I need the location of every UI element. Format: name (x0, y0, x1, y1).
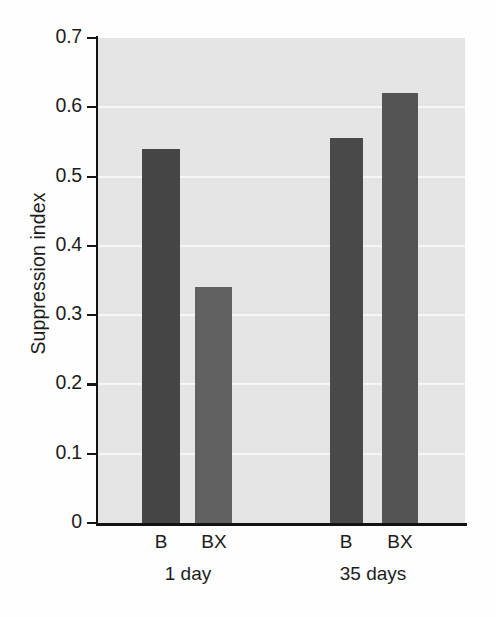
y-tick-mark (87, 314, 96, 316)
y-tick-mark (87, 383, 96, 385)
plot-area (98, 38, 465, 523)
y-tick-label: 0.3 (12, 302, 82, 325)
bar-b-35days (330, 138, 363, 523)
y-tick-label: 0 (12, 510, 82, 533)
y-tick-mark (87, 106, 96, 108)
y-axis-line (96, 36, 98, 525)
y-tick-label: 0.2 (12, 371, 82, 394)
y-tick-label: 0.1 (12, 441, 82, 464)
y-tick-label: 0.4 (12, 233, 82, 256)
bar-b-1day (142, 149, 180, 523)
y-axis-title: Suppression index (27, 154, 50, 394)
y-tick-label: 0.6 (12, 94, 82, 117)
x-group-label: 1 day (118, 563, 258, 585)
x-tick-label: BX (360, 531, 440, 553)
y-tick-mark (87, 245, 96, 247)
y-tick-mark (87, 176, 96, 178)
bar-bx-35days (382, 93, 418, 523)
y-tick-label: 0.7 (12, 25, 82, 48)
figure-container: Suppression index 0.70.60.50.40.30.20.10… (0, 0, 496, 617)
x-axis-line (96, 523, 467, 526)
y-tick-label: 0.5 (12, 164, 82, 187)
y-tick-mark (87, 453, 96, 455)
x-tick-label: BX (174, 531, 254, 553)
bar-bx-1day (195, 287, 232, 523)
y-tick-mark (87, 37, 96, 39)
x-group-label: 35 days (303, 563, 443, 585)
y-tick-mark (87, 522, 96, 524)
